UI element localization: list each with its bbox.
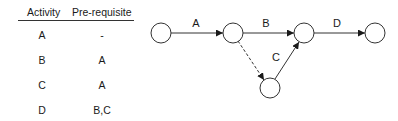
node-4 [365, 23, 385, 43]
edge-d: D [314, 17, 365, 33]
activity-on-arrow-network: A B C D [0, 0, 398, 121]
edge-label-a: A [192, 17, 200, 29]
node-3 [294, 23, 314, 43]
edge-a: A [171, 17, 223, 33]
edge-label-c: C [272, 51, 280, 63]
edge-c: C [272, 42, 299, 79]
node-5 [260, 78, 280, 98]
edge-dummy-dashed [238, 41, 264, 80]
edge-label-b: B [262, 17, 269, 29]
edge-b: B [243, 17, 294, 33]
edge-label-d: D [333, 17, 341, 29]
node-1 [151, 23, 171, 43]
node-2 [223, 23, 243, 43]
